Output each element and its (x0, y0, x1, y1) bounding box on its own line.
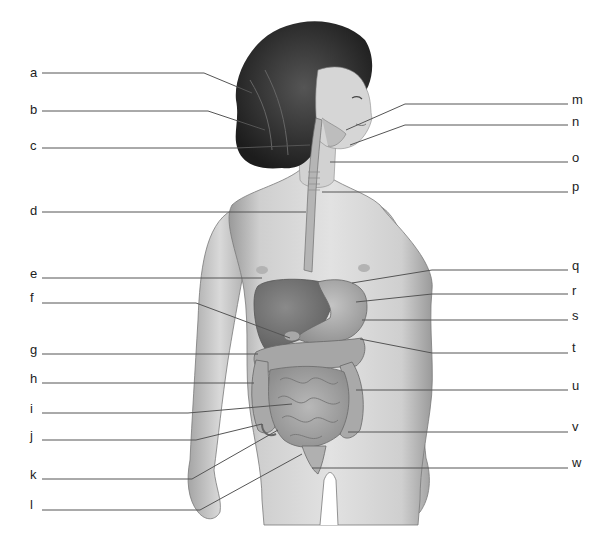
label-e: e (30, 267, 37, 281)
label-a: a (30, 66, 37, 80)
gallbladder (284, 331, 300, 341)
label-t: t (572, 341, 576, 355)
leader-line-b (42, 111, 265, 130)
label-b: b (30, 103, 37, 117)
label-n: n (572, 115, 579, 129)
label-k: k (30, 468, 37, 482)
leader-line-j (42, 424, 262, 440)
label-v: v (572, 420, 579, 434)
label-i: i (30, 402, 33, 416)
label-j: j (30, 429, 33, 443)
label-g: g (30, 343, 37, 357)
label-h: h (30, 372, 37, 386)
small-intestine (269, 366, 349, 447)
label-d: d (30, 204, 37, 218)
label-f: f (30, 291, 34, 305)
label-q: q (572, 259, 579, 273)
label-m: m (572, 93, 583, 107)
leader-line-n (350, 125, 568, 145)
leader-line-m (346, 104, 568, 130)
label-w: w (572, 456, 581, 470)
label-c: c (30, 139, 37, 153)
label-p: p (572, 180, 579, 194)
label-o: o (572, 151, 579, 165)
leader-line-a (42, 73, 252, 93)
digestive-system-illustration (0, 0, 613, 548)
label-u: u (572, 379, 579, 393)
label-s: s (572, 309, 579, 323)
label-r: r (572, 284, 576, 298)
label-l: l (30, 498, 33, 512)
leader-line-k (42, 430, 278, 479)
